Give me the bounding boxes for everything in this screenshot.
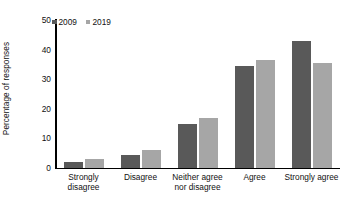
- bar: [256, 60, 275, 168]
- bar-group: [169, 20, 226, 168]
- legend-item: 2009: [52, 17, 77, 27]
- bar: [85, 159, 104, 168]
- bar: [292, 41, 311, 168]
- bar: [121, 155, 140, 168]
- plot-area: [55, 20, 340, 168]
- x-axis-tick-label-line: nor disagree: [169, 182, 226, 192]
- y-axis-tick-label: 30: [27, 74, 51, 84]
- x-axis-tick-label: Neither agreenor disagree: [169, 172, 226, 192]
- bar-group: [55, 20, 112, 168]
- bar-chart: Percentage of responses 01020304050 2009…: [0, 0, 352, 206]
- bar: [199, 118, 218, 168]
- bar: [64, 162, 83, 169]
- legend-swatch-icon: [86, 20, 91, 25]
- legend-label: 2009: [59, 17, 77, 27]
- y-axis-tick-label: 40: [27, 45, 51, 55]
- x-axis-tick-label-line: Neither agree: [169, 172, 226, 182]
- y-axis-tick-label: 0: [27, 163, 51, 173]
- y-axis-tick-label: 10: [27, 133, 51, 143]
- bar: [178, 124, 197, 168]
- y-axis-title: Percentage of responses: [0, 0, 14, 176]
- x-axis-tick-label-line: Agree: [226, 172, 283, 182]
- bar-group: [112, 20, 169, 168]
- x-axis-tick-label: Agree: [226, 172, 283, 182]
- x-axis-tick-label-line: disagree: [55, 182, 112, 192]
- y-axis-title-text: Percentage of responses: [3, 41, 12, 134]
- x-axis-tick-label-line: Strongly agree: [283, 172, 340, 182]
- x-axis-tick-label-line: Disagree: [112, 172, 169, 182]
- x-axis-tick-label: Strongly agree: [283, 172, 340, 182]
- bar-group: [283, 20, 340, 168]
- legend-item: 2019: [86, 17, 111, 27]
- x-axis-tick-label-line: Strongly: [55, 172, 112, 182]
- bar: [235, 66, 254, 168]
- y-axis-tick-labels: 01020304050: [24, 0, 51, 206]
- chart-legend: 20092019: [52, 17, 111, 27]
- x-axis-tick-label: Stronglydisagree: [55, 172, 112, 192]
- y-axis-tick-label: 20: [27, 104, 51, 114]
- bar-group: [226, 20, 283, 168]
- legend-label: 2019: [92, 17, 110, 27]
- bar: [313, 63, 332, 168]
- y-axis-tick-label: 50: [27, 15, 51, 25]
- x-axis-tick-label: Disagree: [112, 172, 169, 182]
- bar: [142, 150, 161, 168]
- legend-swatch-icon: [52, 20, 57, 25]
